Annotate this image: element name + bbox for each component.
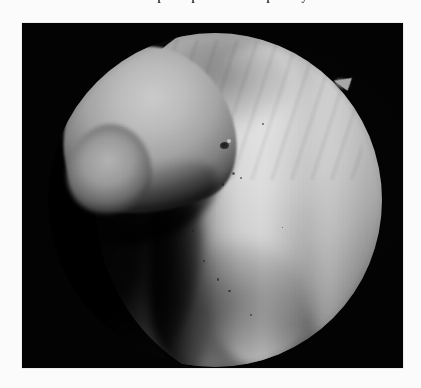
lower-shadow-basin bbox=[168, 240, 308, 367]
tissue-speckle bbox=[262, 123, 264, 125]
clipped-top-text-line: ment occurs at this step the operation i… bbox=[46, 0, 386, 2]
lesion-spot bbox=[220, 142, 229, 149]
endoscopic-photo-plate bbox=[22, 23, 403, 368]
tissue-speckle bbox=[192, 230, 194, 232]
clipped-top-text: ment occurs at this step the operation i… bbox=[0, 0, 421, 9]
field-of-view-wrapper bbox=[48, 33, 382, 367]
tissue-speckle bbox=[240, 177, 242, 179]
field-of-view-disc bbox=[48, 33, 382, 367]
page-root: ment occurs at this step the operation i… bbox=[0, 0, 421, 388]
tissue-speckle bbox=[232, 172, 235, 175]
lesion-spot-highlight bbox=[227, 139, 231, 143]
tissue-speckle bbox=[222, 183, 224, 185]
